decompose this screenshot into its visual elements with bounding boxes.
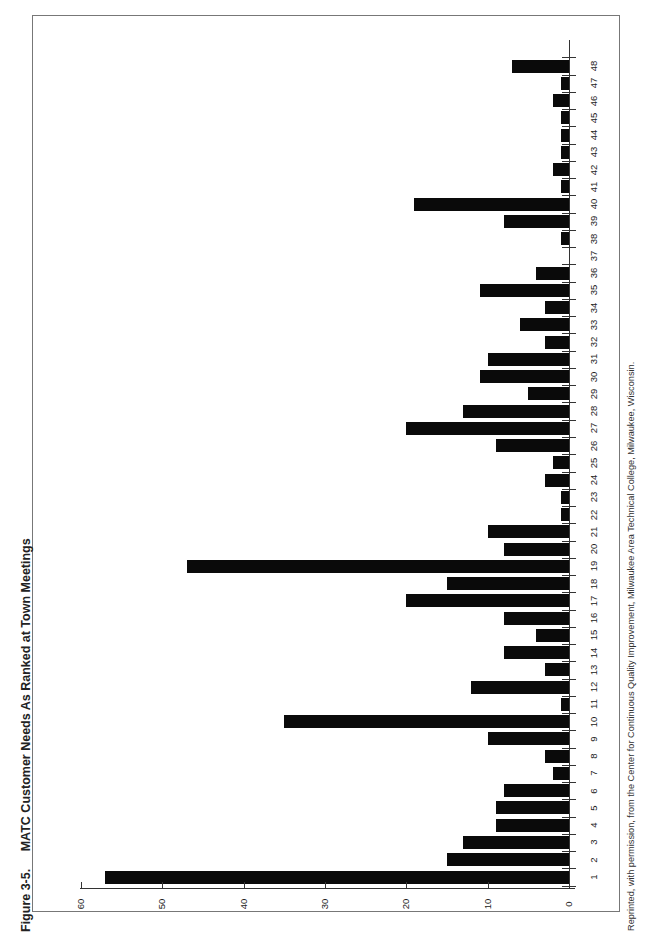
bar-47 [561, 77, 569, 90]
category-tick [562, 385, 576, 386]
bar-18 [447, 577, 569, 590]
category-tick [562, 351, 576, 352]
category-label: 36 [588, 263, 600, 283]
bar-1 [105, 871, 569, 884]
category-label: 19 [588, 556, 600, 576]
bar-33 [520, 318, 569, 331]
category-tick [562, 161, 576, 162]
value-tick [488, 882, 489, 889]
category-tick [562, 126, 576, 127]
bar-24 [545, 474, 569, 487]
category-label: 32 [588, 332, 600, 352]
bar-8 [545, 750, 569, 763]
category-label: 44 [588, 125, 600, 145]
category-tick [562, 472, 576, 473]
bar-3 [463, 836, 569, 849]
bar-9 [488, 732, 569, 745]
figure-credit: Reprinted, with permission, from the Cen… [626, 362, 636, 931]
category-tick [562, 558, 576, 559]
bar-6 [504, 784, 569, 797]
category-axis-line [569, 40, 570, 889]
bar-43 [561, 146, 569, 159]
category-tick [562, 679, 576, 680]
bar-35 [480, 284, 569, 297]
category-tick [562, 402, 576, 403]
category-tick [562, 817, 576, 818]
category-tick [562, 696, 576, 697]
bar-34 [545, 301, 569, 314]
bar-13 [545, 663, 569, 676]
category-tick [562, 109, 576, 110]
bar-16 [504, 612, 569, 625]
category-label: 35 [588, 280, 600, 300]
category-label: 11 [588, 694, 600, 714]
category-label: 12 [588, 677, 600, 697]
category-label: 10 [588, 712, 600, 732]
category-tick [562, 592, 576, 593]
bar-12 [471, 681, 569, 694]
category-tick [562, 333, 576, 334]
category-label: 47 [588, 73, 600, 93]
category-label: 4 [588, 815, 600, 835]
category-tick [562, 575, 576, 576]
category-tick [562, 420, 576, 421]
category-label: 6 [588, 781, 600, 801]
category-label: 43 [588, 142, 600, 162]
category-label: 22 [588, 505, 600, 525]
category-tick [562, 57, 576, 58]
category-label: 26 [588, 436, 600, 456]
category-label: 15 [588, 625, 600, 645]
category-tick [562, 489, 576, 490]
category-tick [562, 799, 576, 800]
bar-41 [561, 180, 569, 193]
bar-42 [553, 163, 569, 176]
value-tick-label: 0 [563, 894, 575, 914]
value-tick [162, 882, 163, 889]
category-label: 28 [588, 401, 600, 421]
bar-4 [496, 819, 569, 832]
category-label: 7 [588, 763, 600, 783]
category-label: 42 [588, 160, 600, 180]
bar-26 [496, 439, 569, 452]
bar-36 [536, 267, 569, 280]
category-tick [562, 748, 576, 749]
category-label: 1 [588, 867, 600, 887]
category-label: 38 [588, 229, 600, 249]
bar-20 [504, 543, 569, 556]
category-tick [562, 713, 576, 714]
value-tick [406, 882, 407, 889]
bar-2 [447, 853, 569, 866]
category-tick [562, 316, 576, 317]
category-label: 27 [588, 418, 600, 438]
figure-title: Figure 3-5. MATC Customer Needs As Ranke… [19, 538, 33, 932]
category-label: 2 [588, 850, 600, 870]
value-tick-label: 40 [238, 894, 250, 914]
bar-11 [561, 698, 569, 711]
bar-5 [496, 801, 569, 814]
value-axis-line [80, 888, 575, 889]
category-tick [562, 523, 576, 524]
bar-44 [561, 129, 569, 142]
category-label: 18 [588, 574, 600, 594]
category-label: 20 [588, 539, 600, 559]
category-label: 14 [588, 643, 600, 663]
category-tick [562, 834, 576, 835]
category-tick [562, 868, 576, 869]
category-label: 16 [588, 608, 600, 628]
figure-number: Figure 3-5. [19, 869, 33, 932]
value-tick-label: 30 [319, 894, 331, 914]
category-tick [562, 644, 576, 645]
bar-45 [561, 111, 569, 124]
category-tick [562, 144, 576, 145]
value-tick [81, 882, 82, 889]
value-tick-label: 60 [75, 894, 87, 914]
figure-frame [32, 15, 620, 912]
value-tick-label: 20 [400, 894, 412, 914]
bar-14 [504, 646, 569, 659]
category-tick [562, 213, 576, 214]
value-tick-label: 10 [482, 894, 494, 914]
category-tick [562, 264, 576, 265]
value-tick [325, 882, 326, 889]
bar-19 [187, 560, 569, 573]
category-tick [562, 195, 576, 196]
